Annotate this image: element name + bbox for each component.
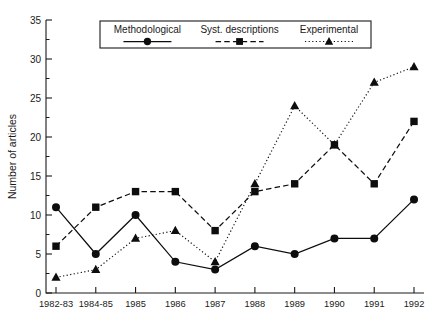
series-methodological xyxy=(52,195,418,273)
marker-circle xyxy=(291,250,299,258)
marker-triangle xyxy=(91,265,100,273)
marker-square xyxy=(52,243,59,250)
marker-square xyxy=(211,227,218,234)
marker-triangle xyxy=(51,273,60,281)
marker-circle xyxy=(410,195,418,203)
x-tick-label: 1982-83 xyxy=(39,299,73,309)
y-tick-label: 5 xyxy=(35,249,41,260)
legend-label: Methodological xyxy=(114,24,181,35)
marker-circle xyxy=(144,38,151,45)
marker-triangle xyxy=(211,257,220,265)
marker-triangle xyxy=(250,179,259,187)
legend-label: Experimental xyxy=(300,24,358,35)
marker-circle xyxy=(370,234,378,242)
line-chart: 051015202530351982-831984-85198519861987… xyxy=(0,0,440,330)
y-tick-label: 15 xyxy=(30,171,42,182)
series-path xyxy=(56,67,414,278)
marker-circle xyxy=(92,250,100,258)
series-syst-descriptions xyxy=(52,118,417,250)
marker-square xyxy=(172,188,179,195)
marker-circle xyxy=(211,266,219,274)
legend-label: Syst. descriptions xyxy=(200,24,278,35)
chart-legend: MethodologicalSyst. descriptionsExperime… xyxy=(100,21,371,48)
marker-circle xyxy=(251,242,259,250)
marker-square xyxy=(291,180,298,187)
marker-square xyxy=(410,118,417,125)
marker-circle xyxy=(52,203,60,211)
x-tick-label: 1988 xyxy=(245,299,266,309)
marker-triangle xyxy=(171,226,180,234)
x-tick-label: 1990 xyxy=(324,299,345,309)
x-tick-label: 1989 xyxy=(284,299,305,309)
x-tick-label: 1992 xyxy=(404,299,425,309)
series-path xyxy=(56,121,414,246)
chart-figure: 051015202530351982-831984-85198519861987… xyxy=(0,0,440,330)
marker-square xyxy=(331,141,338,148)
y-tick-label: 35 xyxy=(30,15,42,26)
marker-circle xyxy=(330,234,338,242)
x-tick-label: 1991 xyxy=(364,299,385,309)
y-tick-label: 0 xyxy=(35,288,41,299)
x-tick-label: 1985 xyxy=(125,299,146,309)
marker-triangle xyxy=(409,62,418,70)
y-tick-label: 30 xyxy=(30,54,42,65)
marker-circle xyxy=(171,258,179,266)
marker-square xyxy=(251,188,258,195)
y-tick-label: 10 xyxy=(30,210,42,221)
marker-square xyxy=(92,204,99,211)
y-tick-label: 20 xyxy=(30,132,42,143)
x-tick-label: 1986 xyxy=(165,299,186,309)
x-tick-label: 1987 xyxy=(205,299,226,309)
series-experimental xyxy=(51,62,418,281)
marker-square xyxy=(371,180,378,187)
x-tick-label: 1984-85 xyxy=(79,299,113,309)
marker-circle xyxy=(132,211,140,219)
axis-spines xyxy=(46,20,424,293)
marker-square xyxy=(132,188,139,195)
y-tick-label: 25 xyxy=(30,93,42,104)
marker-triangle xyxy=(290,101,299,109)
marker-square xyxy=(236,38,243,45)
y-axis-title: Number of articles xyxy=(6,114,18,199)
